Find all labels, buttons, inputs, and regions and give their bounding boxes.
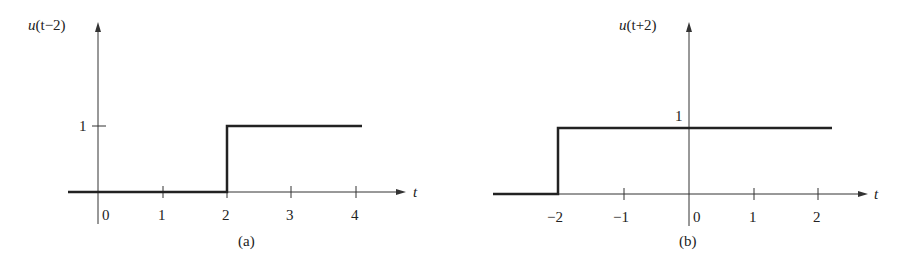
caption-b: (b)	[679, 233, 697, 250]
x-tick-label: 0	[102, 207, 110, 223]
x-tick-label: 2	[813, 209, 821, 225]
x-label-a: t	[413, 184, 418, 200]
x-tick-label: 0	[693, 209, 701, 225]
y-label-a: u(t−2)	[28, 17, 66, 34]
chart-a: u(t−2) t 1 0 1 2 3 4 (a)	[28, 17, 418, 250]
step-signal-b	[493, 128, 832, 194]
y-axis-arrow-icon	[95, 22, 101, 32]
y-tick-1-a: 1	[79, 118, 87, 134]
x-tick-label: 1	[749, 209, 757, 225]
x-tick-label: 2	[222, 207, 230, 223]
chart-b: u(t+2) t 1 −2 −1 0 1 2 (b)	[493, 17, 879, 250]
caption-a: (a)	[238, 233, 255, 250]
x-label-b: t	[874, 186, 879, 202]
x-axis-arrow-icon	[396, 189, 406, 195]
x-tick-label: −2	[547, 209, 563, 225]
x-axis-arrow-icon	[858, 191, 868, 197]
y-label-b: u(t+2)	[619, 17, 657, 34]
y-tick-1-b: 1	[675, 108, 683, 124]
x-tick-label: 1	[158, 207, 166, 223]
x-tick-label: 3	[286, 207, 294, 223]
x-tick-label: 4	[351, 207, 359, 223]
x-tick-label: −1	[613, 209, 629, 225]
figure: u(t−2) t 1 0 1 2 3 4 (a) u(t+2) t 1 −2 −…	[0, 0, 898, 280]
step-signal-a	[68, 126, 362, 192]
y-axis-arrow-icon	[686, 22, 692, 32]
